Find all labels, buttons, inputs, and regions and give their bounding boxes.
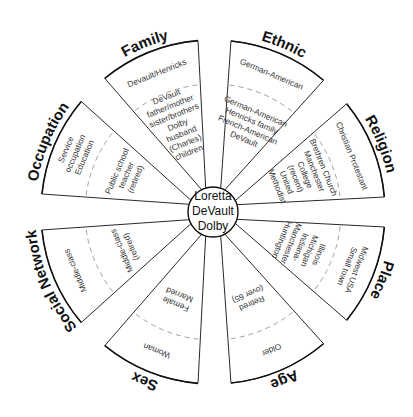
center-line-1: Loretta <box>194 189 232 203</box>
center-line-3: Dolby <box>198 219 229 233</box>
center-line-2: DeVault <box>192 204 234 218</box>
center-hub: Loretta DeVault Dolby <box>188 187 238 237</box>
identity-wheel-diagram: FamilyDevault/HenricksDeVaultfather/moth… <box>0 0 413 417</box>
